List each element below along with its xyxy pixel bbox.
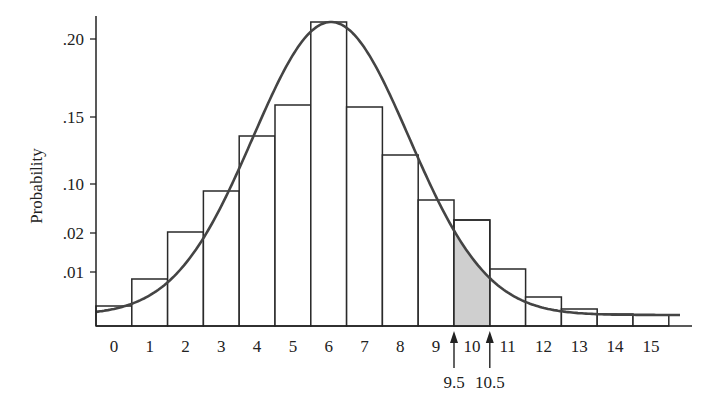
arrow-label: 10.5 — [475, 373, 505, 392]
histogram-bar — [633, 315, 669, 326]
histogram-bar — [490, 269, 526, 326]
y-axis-title: Probability — [27, 148, 46, 224]
x-tick-label: 15 — [642, 337, 659, 356]
x-tick-label: 5 — [289, 337, 298, 356]
histogram-bar — [311, 22, 347, 326]
y-tick-label: .01 — [63, 263, 84, 282]
arrow-label: 9.5 — [443, 373, 464, 392]
x-tick-label: 14 — [607, 337, 625, 356]
histogram-bar — [275, 105, 311, 326]
histogram-bars — [96, 22, 669, 326]
x-tick-label: 9 — [432, 337, 441, 356]
x-ticks: 0123456789101112131415 — [110, 337, 660, 356]
histogram-bar — [203, 191, 239, 326]
x-tick-label: 13 — [571, 337, 588, 356]
y-tick-label: .20 — [63, 30, 84, 49]
x-tick-label: 10 — [463, 337, 480, 356]
histogram-chart: .20.15.10.02.01 0123456789101112131415 P… — [0, 0, 703, 405]
histogram-bar — [239, 136, 275, 326]
x-tick-label: 7 — [360, 337, 369, 356]
x-tick-label: 12 — [535, 337, 552, 356]
histogram-bar — [347, 107, 383, 326]
x-tick-label: 4 — [253, 337, 262, 356]
x-tick-label: 2 — [181, 337, 190, 356]
x-tick-label: 0 — [110, 337, 119, 356]
y-tick-label: .10 — [63, 175, 84, 194]
x-tick-label: 6 — [324, 337, 333, 356]
y-tick-label: .02 — [63, 224, 84, 243]
x-tick-label: 3 — [217, 337, 226, 356]
y-ticks: .20.15.10.02.01 — [63, 30, 96, 282]
x-tick-label: 11 — [500, 337, 516, 356]
x-tick-label: 1 — [145, 337, 154, 356]
y-tick-label: .15 — [63, 108, 84, 127]
histogram-bar — [382, 155, 418, 326]
x-tick-label: 8 — [396, 337, 405, 356]
